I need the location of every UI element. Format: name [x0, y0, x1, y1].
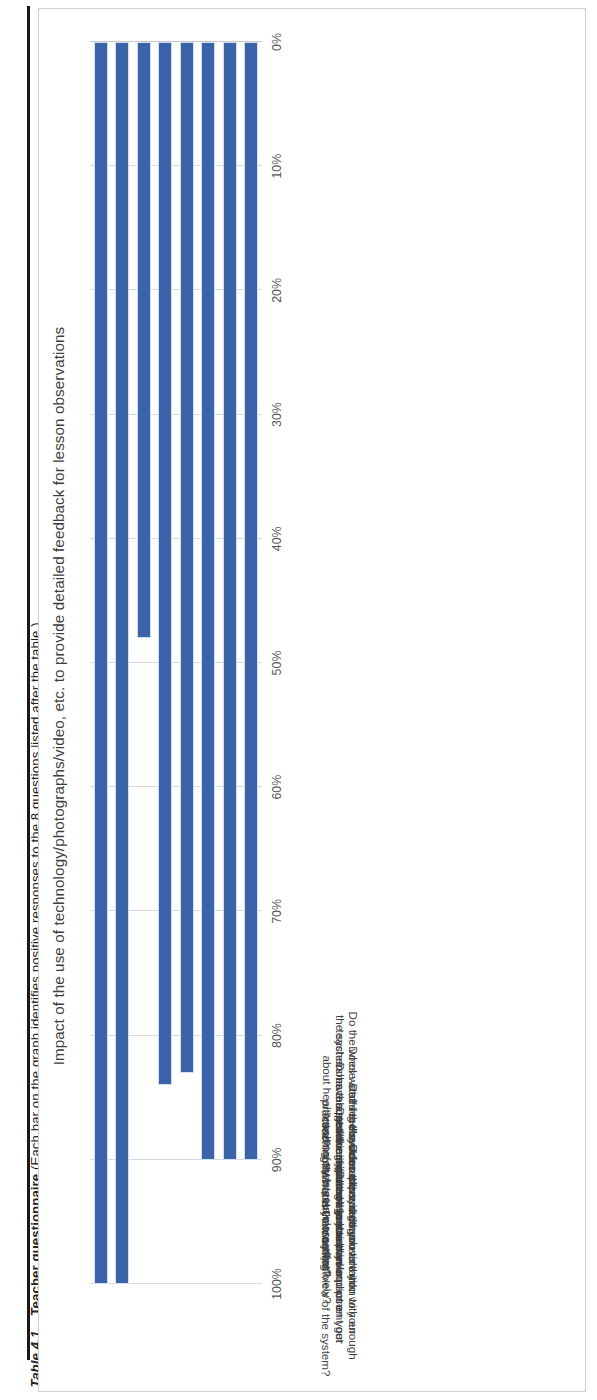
category-labels: What is your overall view of the system?… — [44, 12, 586, 1380]
chart-figure: Impact of the use of technology/photogra… — [38, 8, 586, 1392]
chart-canvas: Impact of the use of technology/photogra… — [44, 12, 586, 1380]
vertical-divider-rule — [27, 6, 30, 1360]
category-label-8: Do the whole-staff feedback sessions usi… — [320, 1005, 360, 1241]
